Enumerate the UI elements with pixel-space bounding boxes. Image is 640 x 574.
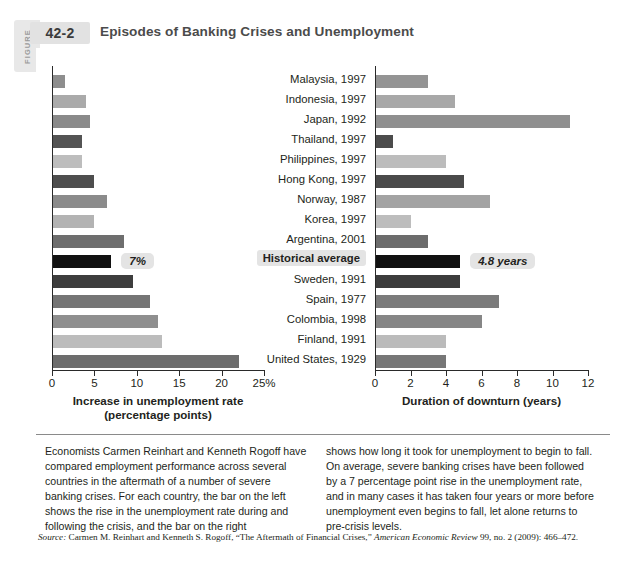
bar-right-4 [375, 155, 446, 168]
category-label-philippines-1997: Philippines, 1997 [36, 153, 366, 165]
axis-tick-right-6 [482, 371, 483, 376]
category-label-indonesia-1997: Indonesia, 1997 [36, 93, 366, 105]
category-label-united-states-1929: United States, 1929 [36, 353, 366, 365]
axis-tick-right-4 [446, 371, 447, 376]
bar-right-10 [375, 275, 460, 288]
figure-page: FIGURE 42-2 Episodes of Banking Crises a… [0, 0, 640, 574]
axis-ticklabel-right-8: 8 [514, 377, 520, 389]
bar-right-14 [375, 355, 446, 368]
axis-tick-right-12 [588, 371, 589, 376]
axis-ticklabel-right-6: 6 [478, 377, 484, 389]
category-label-japan-1992: Japan, 1992 [36, 113, 366, 125]
bar-right-0 [375, 75, 428, 88]
category-label-korea-1997: Korea, 1997 [36, 213, 366, 225]
category-label-hong-kong-1997: Hong Kong, 1997 [36, 173, 366, 185]
axis-title-left: Increase in unemployment rate(percentage… [28, 394, 288, 423]
bar-right-11 [375, 295, 499, 308]
bar-right-9 [375, 255, 460, 268]
category-label-finland-1991: Finland, 1991 [36, 333, 366, 345]
source-text: Carmen M. Reinhart and Kenneth S. Rogoff… [66, 532, 374, 542]
axis-ticklabel-right-10: 10 [546, 377, 559, 389]
category-label-norway-1987: Norway, 1987 [36, 193, 366, 205]
source-citation: Source: Carmen M. Reinhart and Kenneth S… [38, 531, 598, 544]
chart-container: 0510152025%Increase in unemployment rate… [36, 48, 610, 428]
bar-right-8 [375, 235, 428, 248]
axis-title-right: Duration of downturn (years) [352, 394, 612, 408]
source-label: Source: [38, 532, 66, 542]
axis-ticklabel-right-2: 2 [407, 377, 413, 389]
divider-top [36, 434, 610, 435]
source-journal: American Economic Review [374, 532, 478, 542]
axis-title-left-line2: (percentage points) [104, 408, 212, 421]
axis-tick-right-10 [553, 371, 554, 376]
category-label-malaysia-1997: Malaysia, 1997 [36, 73, 366, 85]
axis-tick-right-8 [517, 371, 518, 376]
body-text-left-column: Economists Carmen Reinhart and Kenneth R… [45, 444, 307, 534]
category-label-historical-average-text: Historical average [257, 250, 366, 266]
axis-ticklabel-right-12: 12 [582, 377, 595, 389]
axis-tick-right-2 [411, 371, 412, 376]
bar-right-7 [375, 215, 411, 228]
bar-right-2 [375, 115, 570, 128]
bar-right-12 [375, 315, 482, 328]
category-label-thailand-1997: Thailand, 1997 [36, 133, 366, 145]
bar-right-1 [375, 95, 455, 108]
axis-ticklabel-right-4: 4 [443, 377, 449, 389]
bar-right-13 [375, 335, 446, 348]
category-label-colombia-1998: Colombia, 1998 [36, 313, 366, 325]
body-text-right-column: shows how long it took for unemployment … [326, 444, 598, 534]
bar-right-5 [375, 175, 464, 188]
category-label-argentina-2001: Argentina, 2001 [36, 233, 366, 245]
axis-ticklabel-right-0: 0 [372, 377, 378, 389]
category-label-sweden-1991: Sweden, 1991 [36, 273, 366, 285]
bar-right-6 [375, 195, 490, 208]
source-citation-detail: 99, no. 2 (2009): 466–472. [478, 532, 579, 542]
axis-spine-right [375, 66, 376, 370]
bar-right-3 [375, 135, 393, 148]
category-label-historical-average: Historical average [36, 252, 366, 264]
figure-number: 42-2 [30, 22, 90, 44]
category-label-spain-1977: Spain, 1977 [36, 293, 366, 305]
axis-tick-right-0 [375, 371, 376, 376]
page-title: Episodes of Banking Crises and Unemploym… [100, 24, 414, 39]
callout-right: 4.8 years [470, 253, 535, 269]
